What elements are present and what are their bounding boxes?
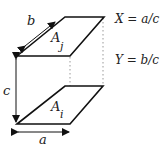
equation-x: X = a/c [114, 12, 159, 26]
label-ai-sub: i [60, 108, 64, 121]
label-c: c [3, 83, 11, 98]
view-factor-diagram: b c a A j A i X = a/c Y = b/c [0, 0, 162, 147]
label-aj-main: A [50, 30, 60, 45]
label-ai-main: A [50, 99, 60, 114]
label-b: b [27, 13, 35, 28]
equation-y: Y = b/c [115, 53, 159, 67]
label-a: a [39, 132, 47, 147]
